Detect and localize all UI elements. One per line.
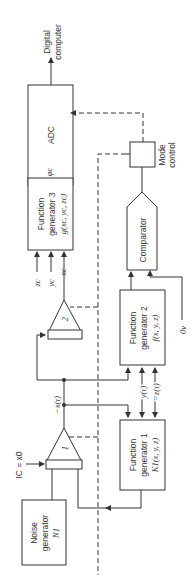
digital-computer-output: Digital computer (42, 24, 63, 85)
y-tau-label: y(τ) (138, 386, 148, 400)
function-generator-2-block: Function generator 2 f(x, y, z) (120, 290, 165, 365)
digital-computer-label-1: Digital (42, 30, 52, 54)
function-generator-1-block: Function generator 1 K1(x, y, z) (120, 420, 165, 490)
function-generator-3-block: Function generator 3 g(xc, yc, zc) (28, 178, 73, 250)
comparator-label: Comparator (138, 217, 148, 262)
comparator-block: Comparator (127, 192, 157, 270)
svg-text:generator: generator (40, 515, 50, 552)
digital-computer-label-2: computer (53, 24, 63, 60)
svg-text:N1: N1 (51, 528, 61, 539)
zero-v-label: 0v (178, 326, 188, 334)
mode-to-adc-control-line (78, 113, 143, 142)
mode-control-block: Mode control (126, 142, 177, 168)
svg-text:generator 1: generator 1 (139, 433, 149, 477)
svg-text:Noise: Noise (29, 522, 39, 544)
amplifier-1: 1 (46, 428, 82, 469)
adc-label: ADC (46, 126, 56, 144)
mode-control-label-1: Mode (157, 144, 167, 166)
amplifier-2: 2 (48, 300, 82, 339)
mode-control-label-2: control (167, 142, 177, 168)
svg-text:generator 2: generator 2 (139, 306, 149, 350)
noise-generator-block: Noise generator N1 (22, 500, 66, 565)
svg-text:1: 1 (60, 446, 70, 450)
svg-text:Function: Function (128, 311, 138, 344)
svg-text:Function: Function (128, 438, 138, 471)
svg-text:f(x, y, z): f(x, y, z) (150, 314, 160, 341)
svg-text:g(xc, yc, zc): g(xc, yc, zc) (58, 194, 68, 235)
yc-label: yc (46, 279, 56, 288)
zc-label: zc (32, 279, 42, 287)
phi-c-label: φc (44, 168, 54, 177)
svg-text:Function: Function (36, 197, 46, 230)
svg-text:generator 3: generator 3 (47, 192, 57, 236)
xc-label: xc (58, 268, 68, 277)
neg-x-tau-label: −x(τ) (52, 396, 62, 414)
block-diagram: Digital computer ADC Mode control φc Fun… (0, 0, 195, 575)
ic-label: IC = x0 (14, 451, 24, 478)
neg-z-tau-label: −z(τ) (151, 383, 161, 401)
svg-text:K1(x, y, z): K1(x, y, z) (150, 438, 160, 474)
